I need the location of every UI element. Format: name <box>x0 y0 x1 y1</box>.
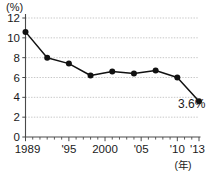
x-tick-label-2013: '13 <box>190 143 205 155</box>
y-tick-label-4: 4 <box>14 91 21 103</box>
data-point-2001 <box>109 69 115 75</box>
y-axis-unit-label: (%) <box>6 1 23 13</box>
x-tick-label-1995: '95 <box>61 143 76 155</box>
x-tick-label-2005: '05 <box>134 143 149 155</box>
x-tick-label-1989: 1989 <box>15 143 41 155</box>
data-point-1995 <box>66 61 72 67</box>
data-point-1992 <box>44 55 50 61</box>
x-axis-unit-label: (年) <box>175 159 192 171</box>
y-tick-label-10: 10 <box>7 32 20 44</box>
y-tick-label-12: 12 <box>7 12 20 24</box>
x-tick-label-2010: '10 <box>170 143 185 155</box>
annotation-value-label: 3.6% <box>178 97 206 111</box>
y-tick-label-6: 6 <box>14 72 20 84</box>
y-tick-label-8: 8 <box>14 52 20 64</box>
chart-canvas: 024681012 1989'952000'05'10'13 3.6% (%) … <box>0 0 206 173</box>
x-tick-label-2000: 2000 <box>92 143 118 155</box>
data-point-2007 <box>153 68 159 74</box>
data-point-1998 <box>88 73 94 79</box>
y-tick-label-2: 2 <box>14 111 20 123</box>
y-tick-label-0: 0 <box>14 131 20 143</box>
data-point-2010 <box>174 75 180 81</box>
data-point-1989 <box>23 29 29 35</box>
line-chart-figure: 024681012 1989'952000'05'10'13 3.6% (%) … <box>0 0 206 173</box>
data-annotations: 3.6% <box>178 97 206 111</box>
data-point-2004 <box>131 71 137 77</box>
